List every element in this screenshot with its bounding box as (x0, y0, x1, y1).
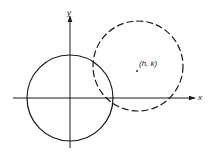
center-label: (h, k) (139, 59, 158, 68)
center-point (136, 70, 138, 72)
y-axis-label: y (66, 8, 72, 17)
circle-translation-diagram: (h, k) x y (0, 0, 210, 155)
x-axis-label: x (197, 93, 203, 102)
